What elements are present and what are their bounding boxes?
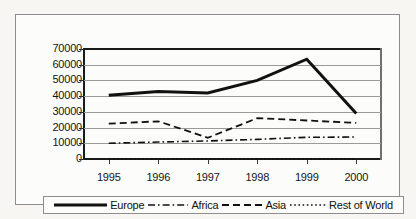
y-axis-tick-label: 70000: [30, 43, 82, 54]
legend-swatch-dashed-icon: [220, 200, 264, 210]
x-axis-tick-label: 1999: [287, 172, 327, 183]
x-tick-mark: [208, 160, 209, 164]
y-axis-tick-label: 30000: [30, 106, 82, 117]
y-tick-mark: [79, 80, 84, 81]
y-tick-mark: [79, 96, 84, 97]
series-line-asia: [109, 118, 357, 138]
chart-frame: 010000200003000040000500006000070000 199…: [15, 14, 400, 205]
chart-legend: EuropeAfricaAsiaRest of World: [43, 196, 404, 214]
series-line-africa: [109, 137, 357, 143]
series-line-europe: [109, 59, 357, 113]
y-axis-tick-label: 10000: [30, 137, 82, 148]
x-axis-tick-label: 1995: [89, 172, 129, 183]
x-tick-mark: [307, 160, 308, 164]
x-tick-mark: [109, 160, 110, 164]
legend-label: Europe: [109, 200, 146, 211]
x-axis-tick-label: 2000: [336, 172, 376, 183]
legend-item-europe[interactable]: Europe: [52, 197, 146, 213]
legend-label: Rest of World: [328, 200, 395, 211]
x-tick-mark: [158, 160, 159, 164]
legend-swatch-solid-icon: [52, 200, 109, 210]
legend-item-africa[interactable]: Africa: [146, 197, 220, 213]
legend-item-rest-of-world[interactable]: Rest of World: [288, 197, 395, 213]
x-axis-tick-label: 1996: [138, 172, 178, 183]
legend-item-asia[interactable]: Asia: [220, 197, 288, 213]
y-tick-mark: [79, 143, 84, 144]
y-tick-mark: [79, 128, 84, 129]
chart-screenshot: 010000200003000040000500006000070000 199…: [0, 0, 416, 219]
legend-swatch-dashdot-icon: [146, 200, 190, 210]
y-axis-labels: 010000200003000040000500006000070000: [26, 15, 82, 206]
y-tick-mark: [79, 49, 84, 50]
legend-label: Africa: [190, 200, 220, 211]
y-axis-tick-label: 20000: [30, 122, 82, 133]
plot-area: [84, 49, 381, 159]
legend-label: Asia: [264, 200, 288, 211]
x-axis-tick-label: 1998: [237, 172, 277, 183]
legend-swatch-dotted-icon: [288, 200, 328, 210]
y-tick-mark: [79, 65, 84, 66]
series-layer: [84, 49, 381, 159]
y-tick-mark: [79, 159, 84, 160]
y-tick-mark: [79, 112, 84, 113]
x-tick-mark: [257, 160, 258, 164]
x-tick-mark: [356, 160, 357, 164]
x-axis-tick-label: 1997: [188, 172, 228, 183]
y-axis-tick-label: 50000: [30, 74, 82, 85]
y-axis-tick-label: 40000: [30, 90, 82, 101]
y-axis-tick-label: 60000: [30, 59, 82, 70]
y-axis-tick-label: 0: [30, 153, 82, 164]
